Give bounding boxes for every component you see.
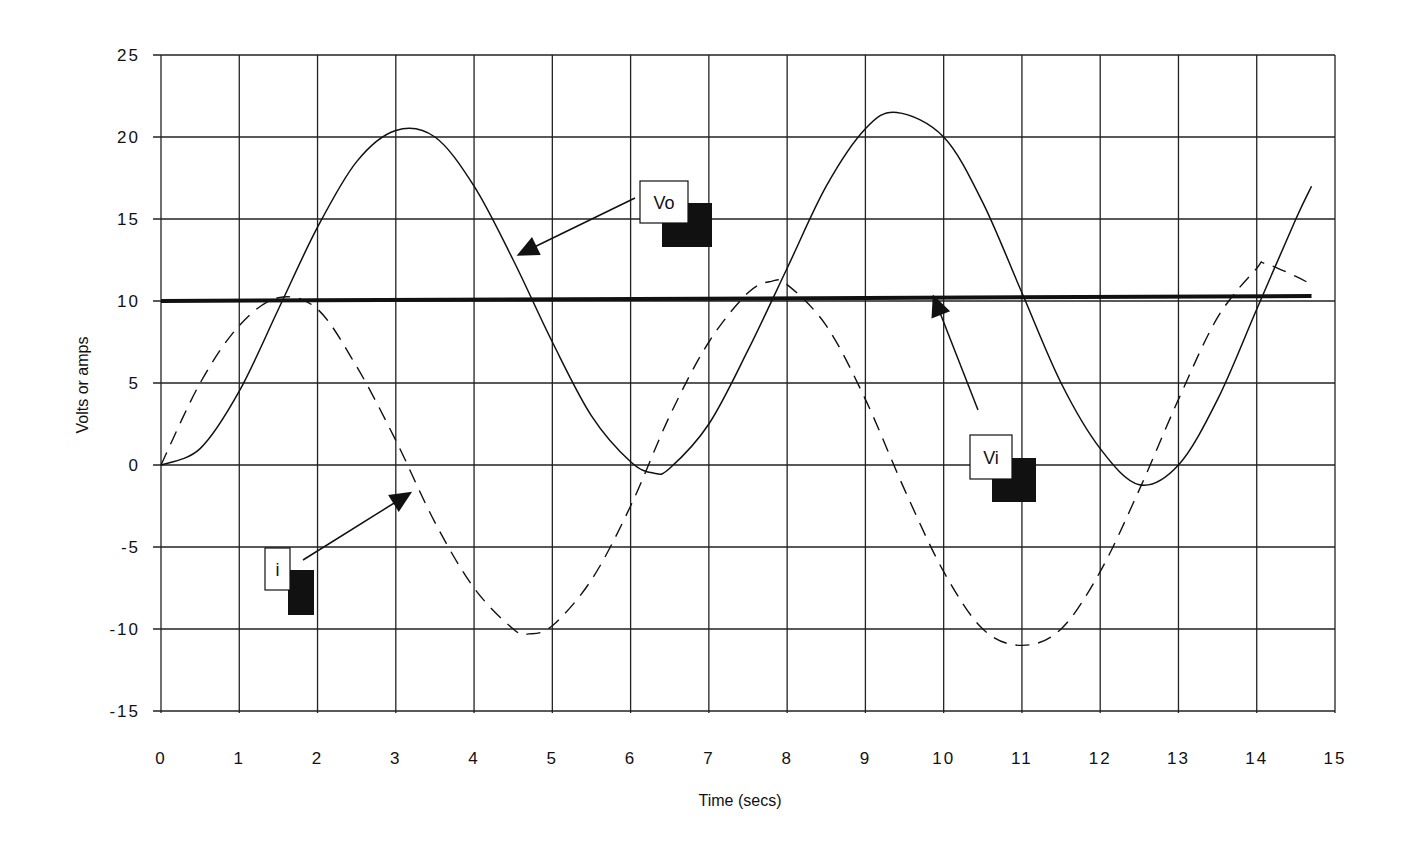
x-tick-label: 3 bbox=[390, 749, 401, 768]
callout-vi: Vi bbox=[932, 294, 1036, 502]
y-axis-title: Volts or amps bbox=[74, 337, 91, 434]
x-tick-label: 13 bbox=[1167, 749, 1190, 768]
grid-lines bbox=[153, 55, 1335, 713]
x-tick-label: 8 bbox=[781, 749, 792, 768]
callout-i: i bbox=[265, 492, 412, 615]
series-lines bbox=[161, 112, 1312, 645]
callouts: VoVii bbox=[265, 181, 1036, 615]
chart: 2520151050-5-10-15 012345678910111213141… bbox=[0, 0, 1422, 856]
series-i-line bbox=[161, 262, 1312, 646]
x-tick-label: 15 bbox=[1324, 749, 1347, 768]
x-tick-label: 2 bbox=[312, 749, 323, 768]
x-tick-label: 11 bbox=[1011, 749, 1033, 768]
x-tick-label: 0 bbox=[155, 749, 166, 768]
y-axis-tick-labels: 2520151050-5-10-15 bbox=[109, 46, 140, 721]
series-vi-line bbox=[161, 296, 1312, 301]
x-tick-label: 5 bbox=[547, 749, 558, 768]
x-tick-label: 7 bbox=[703, 749, 714, 768]
x-tick-label: 14 bbox=[1245, 749, 1268, 768]
y-tick-label: -15 bbox=[109, 702, 140, 721]
y-tick-label: 25 bbox=[117, 46, 140, 65]
callout-vo: Vo bbox=[517, 181, 712, 256]
x-axis-tick-labels: 0123456789101112131415 bbox=[155, 749, 1346, 768]
y-tick-label: 5 bbox=[129, 374, 140, 393]
callout-label: i bbox=[276, 560, 280, 580]
callout-arrow-line bbox=[935, 300, 978, 410]
x-tick-label: 1 bbox=[234, 749, 245, 768]
callout-shadow bbox=[288, 570, 314, 615]
callout-arrow-line bbox=[303, 495, 407, 560]
y-tick-label: 15 bbox=[117, 210, 140, 229]
x-tick-label: 9 bbox=[860, 749, 871, 768]
y-tick-label: 20 bbox=[117, 128, 140, 147]
y-tick-label: -5 bbox=[121, 538, 140, 557]
callout-arrow-line bbox=[522, 198, 635, 253]
callout-label: Vo bbox=[653, 193, 674, 213]
x-tick-label: 12 bbox=[1089, 749, 1112, 768]
x-axis-title: Time (secs) bbox=[699, 792, 782, 809]
x-tick-label: 4 bbox=[468, 749, 479, 768]
y-tick-label: 0 bbox=[129, 456, 140, 475]
y-tick-label: -10 bbox=[109, 620, 140, 639]
y-tick-label: 10 bbox=[117, 292, 140, 311]
callout-label: Vi bbox=[983, 448, 999, 468]
x-tick-label: 10 bbox=[932, 749, 955, 768]
arrowhead-icon bbox=[388, 492, 412, 512]
x-tick-label: 6 bbox=[625, 749, 636, 768]
chart-canvas: 2520151050-5-10-15 012345678910111213141… bbox=[0, 0, 1422, 856]
